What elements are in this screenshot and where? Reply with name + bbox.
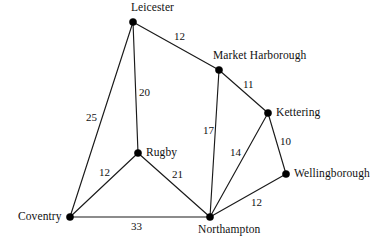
edge-weight-kettering-wellingborough: 10 — [280, 136, 291, 147]
node-label-coventry: Coventry — [18, 211, 62, 223]
edge-weight-kettering-northampton: 14 — [230, 147, 241, 158]
edge-weight-rugby-northampton: 21 — [172, 169, 183, 180]
edge-weight-leicester-market_harborough: 12 — [174, 31, 185, 42]
edge-weight-coventry-northampton: 33 — [131, 221, 142, 232]
node-label-rugby: Rugby — [146, 147, 177, 159]
edge-weight-market_harborough-kettering: 11 — [243, 79, 254, 90]
edge-weight-rugby-coventry: 12 — [99, 167, 110, 178]
labels-layer: 1220251117101412122133LeicesterMarket Ha… — [0, 0, 386, 252]
node-label-market_harborough: Market Harborough — [213, 50, 306, 62]
edge-weight-wellingborough-northampton: 12 — [251, 197, 262, 208]
edge-weight-leicester-rugby: 20 — [139, 87, 150, 98]
edge-weight-market_harborough-northampton: 17 — [203, 125, 214, 136]
node-label-kettering: Kettering — [276, 107, 320, 119]
node-label-leicester: Leicester — [131, 2, 174, 14]
edge-weight-leicester-coventry: 25 — [86, 112, 97, 123]
graph-diagram: 1220251117101412122133LeicesterMarket Ha… — [0, 0, 386, 252]
node-label-northampton: Northampton — [198, 224, 260, 236]
node-label-wellingborough: Wellingborough — [294, 168, 370, 180]
